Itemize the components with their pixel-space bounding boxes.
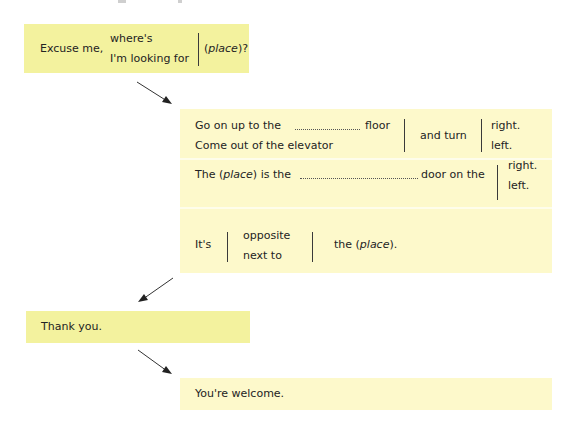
youre-welcome-box: You're welcome. [180,378,552,410]
arrow-down-right-icon [0,0,569,432]
youre-welcome-text: You're welcome. [195,387,284,401]
